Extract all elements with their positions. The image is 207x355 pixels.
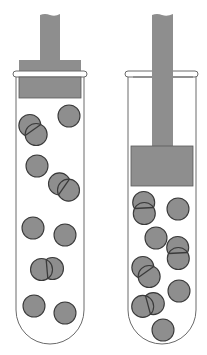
atom-particle	[26, 155, 48, 177]
right-piston-block	[131, 146, 193, 186]
left-piston-head-upper	[19, 60, 81, 72]
diatomic-molecule	[167, 237, 190, 270]
diatomic-molecule	[31, 258, 64, 281]
left-piston-rod	[40, 14, 60, 60]
right-test-tube	[125, 14, 198, 344]
atom-particle	[58, 105, 80, 127]
atom-particle	[23, 295, 45, 317]
left-tube-rim	[13, 71, 87, 77]
atom-particle	[167, 198, 189, 220]
diatomic-molecule	[133, 192, 156, 225]
left-piston-block	[19, 77, 81, 98]
left-test-tube	[13, 14, 87, 344]
right-piston-rod	[152, 14, 173, 146]
atom-particle	[145, 227, 167, 249]
atom-particle	[54, 224, 76, 246]
atom-particle	[152, 319, 174, 341]
gas-compression-diagram	[0, 0, 207, 355]
atom-particle	[22, 217, 44, 239]
atom-particle	[54, 302, 76, 324]
atom-particle	[168, 280, 190, 302]
